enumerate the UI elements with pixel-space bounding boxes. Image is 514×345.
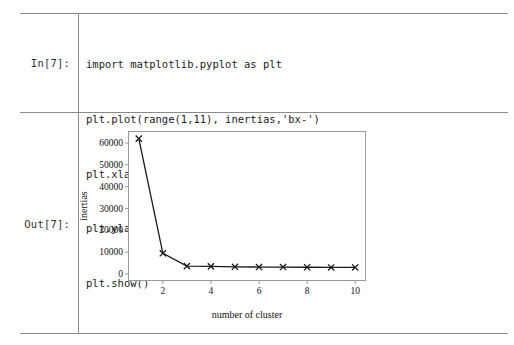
plot-canvas: [78, 113, 408, 331]
x-tick-label: 6: [257, 286, 262, 296]
y-axis-title: inertias: [78, 191, 89, 220]
input-prompt-label: In[7]:: [0, 57, 70, 69]
code-line: import matplotlib.pyplot as plt: [86, 55, 486, 73]
data-point-markers: [136, 136, 359, 271]
y-tick-label: 10000: [99, 247, 123, 257]
matplotlib-figure: 0100002000030000400005000060000 246810 n…: [78, 113, 408, 331]
output-prompt-label: Out[7]:: [0, 218, 70, 230]
cell-bottom-divider: [20, 333, 508, 334]
y-tick-label: 30000: [99, 204, 123, 214]
y-tick-label: 50000: [99, 160, 123, 170]
data-series-line: [139, 139, 355, 268]
x-tick-label: 2: [160, 286, 165, 296]
x-axis-title: number of cluster: [212, 309, 283, 320]
x-tick-label: 4: [209, 286, 214, 296]
cell-top-divider: [20, 13, 508, 14]
x-tick-label: 10: [350, 286, 360, 296]
y-tick-label: 0: [118, 269, 123, 279]
notebook-cell-screenshot: In[7]: import matplotlib.pyplot as plt p…: [0, 0, 514, 345]
y-tick-label: 40000: [99, 182, 123, 192]
cell-output-area: 0100002000030000400005000060000 246810 n…: [78, 113, 508, 333]
y-tick-label: 20000: [99, 225, 123, 235]
x-tick-label: 8: [305, 286, 310, 296]
y-tick-label: 60000: [99, 138, 123, 148]
axis-ticks: [125, 143, 355, 284]
